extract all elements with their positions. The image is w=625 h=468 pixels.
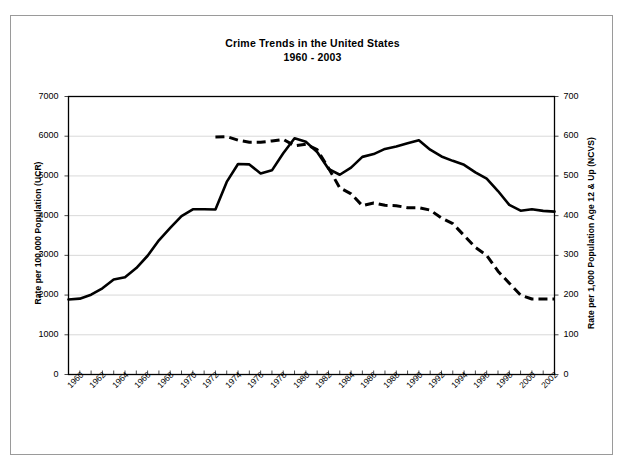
chart-figure: Crime Trends in the United States 1960 -… (0, 0, 625, 468)
y-tick-label-right: 600 (564, 130, 604, 140)
y-tick-label-right: 500 (564, 170, 604, 180)
y-tick-label-right: 300 (564, 249, 604, 259)
plot-border (69, 97, 555, 375)
y-tick-label-right: 200 (564, 289, 604, 299)
y-tick-label-left: 4000 (19, 210, 59, 220)
y-tick-label-right: 400 (564, 210, 604, 220)
chart-plot-svg (0, 0, 625, 468)
plot-frame (69, 97, 555, 375)
gridlines (69, 97, 555, 335)
y-tick-label-left: 1000 (19, 329, 59, 339)
series-line-ucr (69, 138, 555, 299)
y-tick-label-right: 0 (564, 369, 604, 379)
series-line-ncvs (215, 137, 554, 299)
y-tick-label-left: 6000 (19, 130, 59, 140)
y-tick-label-right: 700 (564, 91, 604, 101)
y-tick-label-left: 5000 (19, 170, 59, 180)
y-tick-label-left: 3000 (19, 249, 59, 259)
y-tick-label-left: 2000 (19, 289, 59, 299)
series-layer (69, 137, 555, 300)
y-tick-label-right: 100 (564, 329, 604, 339)
y-tick-label-left: 7000 (19, 91, 59, 101)
y-tick-label-left: 0 (19, 369, 59, 379)
